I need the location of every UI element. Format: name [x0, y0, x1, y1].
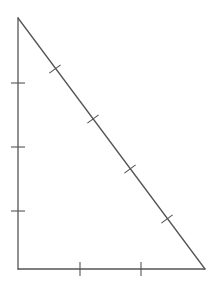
hypotenuse-tick-mark-3	[124, 165, 135, 173]
hypotenuse-tick-mark-2	[87, 115, 98, 123]
hypotenuse-edge	[18, 18, 205, 269]
triangle-edges	[18, 18, 205, 269]
triangle-diagram	[0, 0, 216, 293]
tick-marks	[11, 65, 173, 276]
hypotenuse-tick-mark-4	[161, 215, 172, 223]
